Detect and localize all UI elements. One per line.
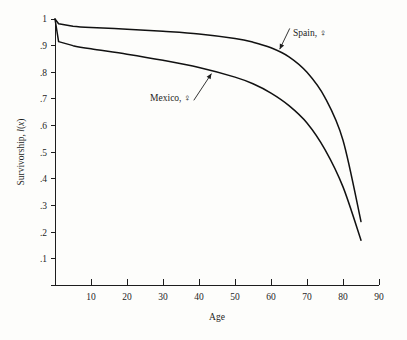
annotation-arrow-head [207,74,212,80]
x-tick-label: 80 [338,292,348,302]
x-tick-label: 20 [122,292,132,302]
x-tick-label: 40 [194,292,204,302]
y-tick-label: .4 [40,174,47,184]
y-tick-label: .2 [40,228,47,238]
x-tick-label: 10 [86,292,96,302]
y-axis-ticks [51,19,55,286]
x-tick-label: 30 [158,292,168,302]
curve-spain [55,19,361,222]
x-tick-label: 70 [302,292,312,302]
x-tick-label: 90 [374,292,384,302]
x-tick-label: 50 [230,292,240,302]
y-tick-label: .7 [40,94,47,104]
series-annotation-label: Spain, ♀ [293,28,327,38]
y-tick-label: .1 [40,254,47,264]
survivorship-chart-figure: .1.2.3.4.5.6.7.8.91 102030405060708090 S… [0,0,407,340]
y-tick-label: 1 [42,14,47,24]
data-curves [55,19,361,240]
x-tick-label: 60 [266,292,276,302]
x-axis-title: Age [209,312,225,322]
x-axis-ticks [91,279,379,285]
chart-svg: .1.2.3.4.5.6.7.8.91 102030405060708090 S… [0,0,407,340]
y-tick-label: .9 [40,41,47,51]
y-tick-label: .5 [40,148,47,158]
x-axis-tick-labels: 102030405060708090 [86,292,384,302]
y-axis-tick-labels: .1.2.3.4.5.6.7.8.91 [40,14,47,264]
y-tick-label: .3 [40,201,47,211]
series-annotation-label: Mexico, ♀ [150,93,191,103]
curve-mexico [55,19,361,240]
y-tick-label: .8 [40,68,47,78]
y-tick-label: .6 [40,121,47,131]
y-axis-title: Survivorship, l(x) [16,118,27,185]
